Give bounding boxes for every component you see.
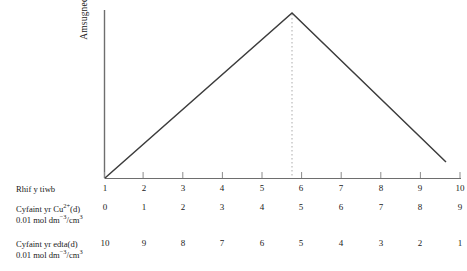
copper-units-prefix: 0.01 mol dm [16,215,60,225]
row-label-copper-volume-line2: 0.01 mol dm−3/cm3 [16,215,83,226]
copper-value-1: 0 [90,202,120,212]
edta-value-2: 9 [129,238,159,248]
copper-value-4: 3 [207,202,237,212]
edta-value-9: 2 [405,238,435,248]
tick-label-8: 8 [366,183,396,193]
job-plot-svg [0,0,467,271]
copper-value-10: 9 [445,202,467,212]
copper-value-7: 6 [326,202,356,212]
edta-value-6: 5 [286,238,316,248]
copper-value-8: 7 [366,202,396,212]
copper-value-6: 5 [286,202,316,212]
copper-value-3: 2 [168,202,198,212]
tick-label-3: 3 [168,183,198,193]
edta-units-middle: /cm [67,250,80,260]
tick-label-4: 4 [207,183,237,193]
x-axis-ticks [105,172,461,178]
tick-label-10: 10 [445,183,467,193]
copper-value-2: 1 [129,202,159,212]
edta-volume-values: 10 9 8 7 6 5 4 3 2 1 [0,238,467,250]
edta-value-1: 10 [90,238,120,248]
y-axis-label: Amsugnedd [79,0,95,64]
row-label-edta-volume-line2: 0.01 mol dm−3/cm3 [16,250,83,261]
copper-value-9: 8 [405,202,435,212]
edta-value-8: 3 [366,238,396,248]
x-axis-tick-labels: 1 2 3 4 5 6 7 8 9 10 [0,183,467,195]
edta-value-3: 8 [168,238,198,248]
copper-volume-values: 0 1 2 3 4 5 6 7 8 9 [0,202,467,214]
absorbance-trace [105,13,446,178]
tick-label-2: 2 [129,183,159,193]
copper-value-5: 4 [247,202,277,212]
edta-units-prefix: 0.01 mol dm [16,250,60,260]
tick-label-7: 7 [326,183,356,193]
tick-label-6: 6 [286,183,316,193]
copper-units-middle: /cm [67,215,80,225]
tick-label-5: 5 [247,183,277,193]
edta-value-10: 1 [445,238,467,248]
edta-value-5: 6 [247,238,277,248]
figure-root: Amsugnedd Rhif y tiwb 1 2 3 4 5 6 7 8 9 … [0,0,467,271]
tick-label-1: 1 [90,183,120,193]
tick-label-9: 9 [405,183,435,193]
edta-value-7: 4 [326,238,356,248]
edta-value-4: 7 [207,238,237,248]
